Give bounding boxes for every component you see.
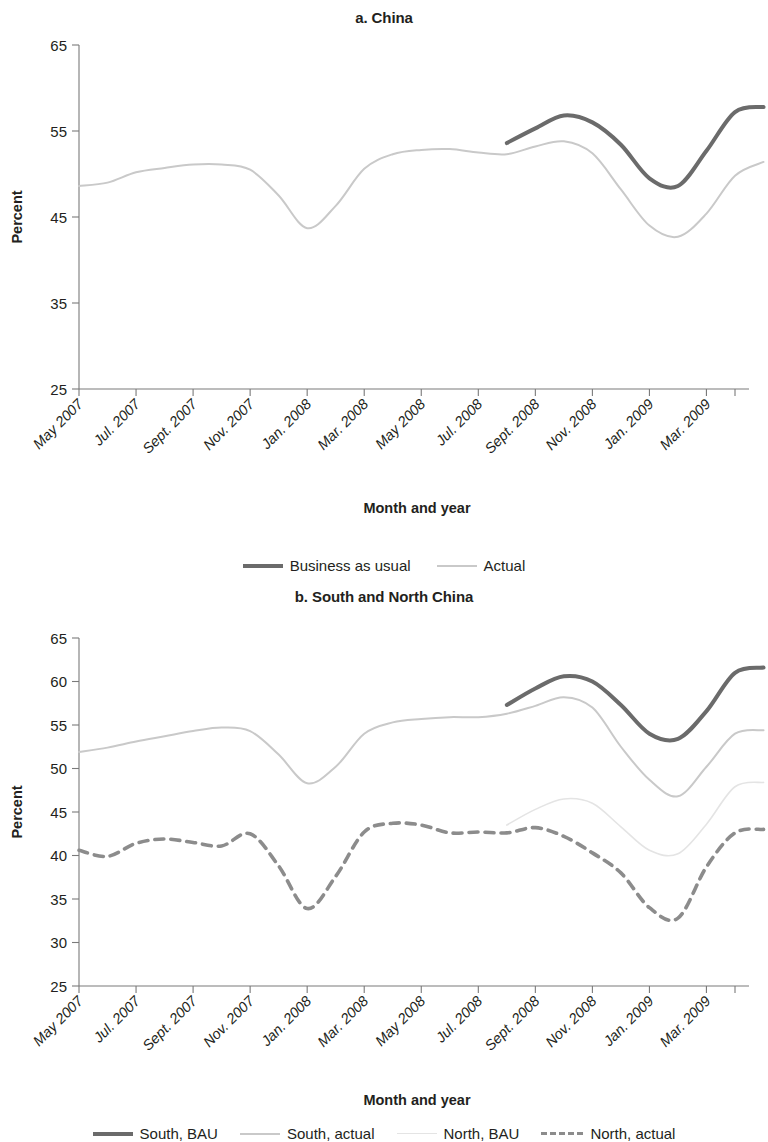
x-tick-label: Jan. 2008	[257, 396, 314, 453]
series-line-south-actual	[79, 697, 764, 796]
x-tick-label: Mar. 2008	[314, 396, 371, 453]
y-tick-label: 55	[50, 717, 67, 734]
x-tick-label: Jan. 2008	[257, 993, 314, 1050]
y-tick-label: 35	[50, 295, 67, 312]
y-tick-label: 45	[50, 209, 67, 226]
legend-item-north-actual[interactable]: North, actual	[541, 1126, 675, 1141]
legend-swatch-icon	[240, 1133, 280, 1135]
y-tick-label: 25	[50, 978, 67, 995]
y-tick-label: 65	[50, 630, 67, 647]
chart-panel-a: a. China 2535455565PercentMay 2007Jul. 2…	[0, 0, 768, 570]
x-tick-label: Jan. 2009	[599, 396, 656, 453]
x-tick-label: Nov. 2007	[200, 992, 258, 1050]
x-axis-title: Month and year	[363, 500, 471, 516]
panel-b-title: b. South and North China	[0, 575, 768, 605]
x-axis-title: Month and year	[363, 1092, 471, 1108]
legend-label: Business as usual	[290, 558, 411, 573]
legend-swatch-icon	[437, 565, 477, 567]
y-tick-label: 25	[50, 381, 67, 398]
y-axis-title: Percent	[9, 785, 25, 838]
x-tick-label: May 2007	[30, 992, 87, 1049]
y-tick-label: 45	[50, 804, 67, 821]
x-tick-label: Sept. 2008	[482, 993, 543, 1054]
legend-item-north-bau[interactable]: North, BAU	[397, 1126, 520, 1141]
panel-a-title: a. China	[0, 0, 768, 26]
y-tick-label: 40	[50, 847, 67, 864]
legend-label: South, BAU	[140, 1126, 218, 1141]
legend-item-business-as-usual[interactable]: Business as usual	[243, 558, 411, 573]
x-tick-label: Jan. 2009	[599, 993, 656, 1050]
x-tick-label: May 2007	[30, 395, 87, 452]
legend-item-actual[interactable]: Actual	[437, 558, 526, 573]
y-tick-label: 60	[50, 673, 67, 690]
y-tick-label: 55	[50, 123, 67, 140]
series-line-north-bau	[507, 782, 764, 856]
legend-label: North, actual	[590, 1126, 675, 1141]
x-tick-label: Sept. 2007	[139, 395, 201, 457]
y-tick-label: 50	[50, 760, 67, 777]
x-tick-label: Nov. 2008	[542, 396, 599, 453]
panel-b-plot-area: 253035404550556065PercentMay 2007Jul. 20…	[0, 605, 768, 1110]
chart-panel-b: b. South and North China 253035404550556…	[0, 575, 768, 1140]
legend-item-south-bau[interactable]: South, BAU	[93, 1126, 218, 1141]
panel-a-legend: Business as usualActual	[0, 558, 768, 573]
legend-label: South, actual	[287, 1126, 375, 1141]
y-tick-label: 35	[50, 891, 67, 908]
panel-b-svg: 253035404550556065PercentMay 2007Jul. 20…	[0, 605, 768, 1110]
panel-a-plot-area: 2535455565PercentMay 2007Jul. 2007Sept. …	[0, 26, 768, 536]
panel-a-svg: 2535455565PercentMay 2007Jul. 2007Sept. …	[0, 26, 768, 536]
legend-swatch-icon	[541, 1132, 583, 1135]
x-tick-label: Mar. 2009	[657, 396, 714, 453]
x-tick-label: May 2008	[372, 396, 428, 452]
legend-label: Actual	[484, 558, 526, 573]
x-tick-label: Mar. 2009	[657, 993, 714, 1050]
legend-swatch-icon	[93, 1132, 133, 1136]
x-tick-label: Nov. 2008	[542, 993, 599, 1050]
legend-label: North, BAU	[444, 1126, 520, 1141]
legend-swatch-icon	[243, 564, 283, 568]
x-tick-label: Mar. 2008	[314, 993, 371, 1050]
x-tick-label: Jul. 2008	[432, 993, 486, 1047]
x-tick-label: Jul. 2007	[90, 992, 144, 1046]
legend-item-south-actual[interactable]: South, actual	[240, 1126, 375, 1141]
y-axis-title: Percent	[9, 190, 25, 243]
x-tick-label: Sept. 2007	[139, 992, 201, 1054]
x-tick-label: Jul. 2008	[432, 396, 486, 450]
x-tick-label: Nov. 2007	[200, 395, 258, 453]
x-tick-label: May 2008	[372, 993, 428, 1049]
series-line-south-bau	[507, 668, 764, 741]
y-tick-label: 65	[50, 37, 67, 54]
x-tick-label: Sept. 2008	[482, 396, 543, 457]
panel-b-legend: South, BAUSouth, actualNorth, BAUNorth, …	[0, 1126, 768, 1141]
series-line-actual	[79, 141, 764, 237]
legend-swatch-icon	[397, 1133, 437, 1134]
series-line-business-as-usual	[507, 107, 764, 188]
series-line-north-actual	[79, 823, 764, 921]
x-tick-label: Jul. 2007	[90, 395, 144, 449]
y-tick-label: 30	[50, 934, 67, 951]
